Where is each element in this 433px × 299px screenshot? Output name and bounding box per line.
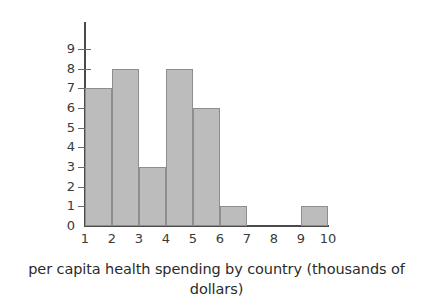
histogram-bar <box>193 108 220 226</box>
y-axis-tick-label: 4 <box>59 140 75 153</box>
y-axis-tick-label: 7 <box>59 81 75 94</box>
x-axis-tick-label: 6 <box>205 231 235 247</box>
histogram-bar <box>166 69 193 226</box>
chart-caption: per capita health spending by country (t… <box>0 259 433 299</box>
x-axis-tick-label: 1 <box>70 231 100 247</box>
y-axis-tick-label: 5 <box>59 121 75 134</box>
histogram-bar <box>220 206 247 226</box>
x-axis-tick-label: 7 <box>232 231 262 247</box>
x-axis-tick-labels: 12345678910 <box>0 231 433 251</box>
x-axis-tick-label: 3 <box>124 231 154 247</box>
histogram-bar <box>85 88 112 226</box>
x-axis-tick-label: 10 <box>313 231 343 247</box>
y-axis-tick-label: 2 <box>59 180 75 193</box>
x-axis-tick-label: 9 <box>286 231 316 247</box>
y-axis-tick-label: 1 <box>59 199 75 212</box>
histogram-bar <box>301 206 328 226</box>
x-axis-tick-label: 5 <box>178 231 208 247</box>
histogram-bar <box>139 167 166 226</box>
x-axis-tick-label: 4 <box>151 231 181 247</box>
x-axis-tick-label: 2 <box>97 231 127 247</box>
y-axis-tick-label: 9 <box>59 42 75 55</box>
histogram-bar <box>112 69 139 226</box>
plot-area <box>85 22 328 226</box>
y-axis-tick-label: 8 <box>59 62 75 75</box>
y-axis-tick-label: 3 <box>59 160 75 173</box>
x-axis-tick-label: 8 <box>259 231 289 247</box>
y-axis-tick-label: 6 <box>59 101 75 114</box>
